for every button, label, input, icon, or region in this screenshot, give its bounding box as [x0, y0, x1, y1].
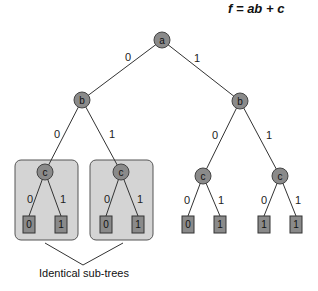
- leaf-value: 1: [293, 219, 299, 230]
- edge-label-c2-0: 0: [104, 193, 110, 205]
- leaf-c4-high: 1: [290, 216, 302, 233]
- leaf-c2-high: 1: [132, 216, 144, 233]
- edge-label-c2-1: 1: [137, 193, 143, 205]
- edge-label-a-0: 0: [125, 51, 131, 63]
- node-a-label: a: [159, 35, 165, 46]
- leaf-c4-low: 1: [258, 216, 270, 233]
- node-c2: c: [113, 164, 129, 180]
- node-b-left: b: [74, 92, 90, 108]
- leaf-c1-low: 0: [23, 216, 35, 233]
- binary-decision-tree-diagram: f = ab + c 0 1 0 1 0 1 0 1 0 1 0 1 0 1 a: [0, 0, 318, 291]
- edge-label-c1-0: 0: [27, 193, 33, 205]
- node-c4-label: c: [278, 171, 283, 182]
- leaf-value: 1: [261, 219, 267, 230]
- leaf-value: 1: [217, 219, 223, 230]
- leaf-value: 1: [58, 219, 64, 230]
- leaf-value: 0: [185, 219, 191, 230]
- identical-subtrees-caption: Identical sub-trees: [39, 267, 129, 279]
- edge-label-br-1: 1: [266, 129, 272, 141]
- leaf-value: 1: [135, 219, 141, 230]
- edge-label-br-0: 0: [212, 129, 218, 141]
- function-title: f = ab + c: [228, 1, 285, 16]
- node-c4: c: [272, 168, 288, 184]
- edge-label-a-1: 1: [194, 52, 200, 64]
- node-b-right-label: b: [237, 96, 243, 107]
- leaf-value: 0: [26, 219, 32, 230]
- node-c3-label: c: [201, 171, 206, 182]
- edge-label-c3-1: 1: [218, 194, 224, 206]
- node-a: a: [154, 32, 170, 48]
- node-b-left-label: b: [79, 95, 85, 106]
- node-b-right: b: [232, 93, 248, 109]
- node-c1: c: [37, 164, 53, 180]
- edge-label-c4-0: 0: [261, 194, 267, 206]
- leaf-c1-high: 1: [55, 216, 67, 233]
- edge-label-bl-1: 1: [109, 128, 115, 140]
- edge-label-c3-0: 0: [184, 194, 190, 206]
- leaf-c3-low: 0: [182, 216, 194, 233]
- leaf-value: 0: [103, 219, 109, 230]
- node-c2-label: c: [119, 167, 124, 178]
- leaf-c3-high: 1: [214, 216, 226, 233]
- edge-label-c4-1: 1: [295, 194, 301, 206]
- leaf-c2-low: 0: [100, 216, 112, 233]
- edge-label-c1-1: 1: [60, 193, 66, 205]
- edge-label-bl-0: 0: [54, 128, 60, 140]
- node-c3: c: [195, 168, 211, 184]
- node-c1-label: c: [43, 167, 48, 178]
